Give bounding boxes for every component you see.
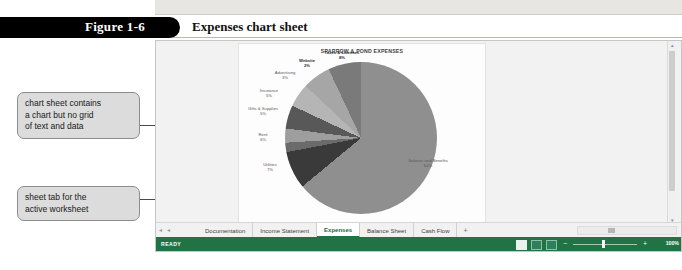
sheet-tab-documentation[interactable]: Documentation: [198, 223, 253, 238]
sheet-nav-buttons[interactable]: ◂ ◂: [159, 226, 170, 233]
pie-label-rent: Rent 6%: [243, 132, 283, 143]
view-mode-buttons: [516, 240, 557, 250]
sheet-tabs: Documentation Income Statement Expenses …: [198, 223, 473, 238]
sheet-tab-expenses[interactable]: Expenses: [317, 223, 360, 238]
callout-chart-sheet: chart sheet contains a chart but no grid…: [17, 92, 140, 139]
zoom-handle[interactable]: [602, 240, 605, 248]
excel-window: SPARROW & POND EXPENSES Taxes & Licenses…: [155, 40, 682, 252]
pie-label-advertising-percent: 3%: [263, 75, 307, 80]
chart-sheet-area[interactable]: SPARROW & POND EXPENSES Taxes & Licenses…: [156, 41, 675, 224]
figure-label: Figure 1-6: [60, 19, 170, 35]
callout-chart-sheet-line-2: a chart but no grid: [25, 110, 132, 122]
pie-label-gifts-supplies: Gifts & Supplies 5%: [239, 106, 287, 117]
status-text: READY: [161, 241, 181, 247]
page-horizontal-rule: [155, 37, 682, 38]
sheet-tab-bar: ◂ ◂ Documentation Income Statement Expen…: [156, 222, 682, 237]
callout-chart-sheet-line-3: of text and data: [25, 121, 132, 133]
pie-shape[interactable]: [285, 62, 437, 214]
page-top-bleed: [155, 0, 682, 15]
zoom-track[interactable]: [573, 244, 637, 245]
vertical-scrollbar[interactable]: ▴ ▾: [667, 41, 675, 224]
callout-sheet-tab-line-1: sheet tab for the: [25, 192, 132, 204]
pie-label-utilities: Utilities 7%: [249, 162, 291, 173]
page-layout-view-button[interactable]: [531, 240, 542, 250]
pie-label-insurance-percent: 5%: [247, 93, 291, 98]
pie-label-insurance: Insurance 5%: [247, 88, 291, 99]
horizontal-scrollbar[interactable]: [577, 226, 677, 235]
scroll-up-arrow-icon[interactable]: ▴: [668, 41, 676, 49]
pie-label-salaries-benefits: Salaries and Benefits 64%: [397, 158, 459, 169]
normal-view-button[interactable]: [516, 240, 527, 250]
add-sheet-button[interactable]: +: [457, 223, 473, 238]
zoom-out-button[interactable]: −: [563, 239, 567, 248]
sheet-tab-income-statement[interactable]: Income Statement: [253, 223, 317, 238]
vertical-scroll-thumb[interactable]: [669, 51, 675, 191]
callout-sheet-tab: sheet tab for the active worksheet: [17, 186, 140, 221]
callout-sheet-tab-line-2: active worksheet: [25, 204, 132, 216]
status-bar: READY − + 100%: [156, 237, 682, 251]
pie-label-website: Website 2%: [285, 58, 329, 69]
pie-label-advertising: Advertising 3%: [263, 70, 307, 81]
zoom-in-button[interactable]: +: [643, 239, 647, 248]
sheet-nav-prev-icon[interactable]: ◂: [167, 226, 170, 233]
sheet-nav-first-icon[interactable]: ◂: [159, 226, 162, 233]
pie-label-rent-percent: 6%: [243, 137, 283, 142]
pie-label-website-percent: 2%: [285, 63, 329, 68]
page-break-view-button[interactable]: [546, 240, 557, 250]
zoom-level-value[interactable]: 100%: [666, 240, 679, 246]
pie-label-salaries-benefits-percent: 64%: [397, 163, 459, 168]
figure-caption: Expenses chart sheet: [192, 19, 308, 35]
sheet-tab-cash-flow[interactable]: Cash Flow: [414, 223, 457, 238]
zoom-slider[interactable]: − +: [563, 240, 647, 248]
pie-chart[interactable]: Taxes & Licenses 8% Website 2% Advertisi…: [285, 62, 437, 214]
figure-page: Figure 1-6 Expenses chart sheet chart sh…: [0, 0, 682, 270]
callout-chart-sheet-line-1: chart sheet contains: [25, 98, 132, 110]
chart-object[interactable]: SPARROW & POND EXPENSES Taxes & Licenses…: [238, 43, 486, 223]
horizontal-scroll-thumb[interactable]: [608, 228, 615, 233]
pie-label-gifts-supplies-percent: 5%: [239, 111, 287, 116]
pie-label-utilities-percent: 7%: [249, 167, 291, 172]
sheet-tab-balance-sheet[interactable]: Balance Sheet: [360, 223, 414, 238]
